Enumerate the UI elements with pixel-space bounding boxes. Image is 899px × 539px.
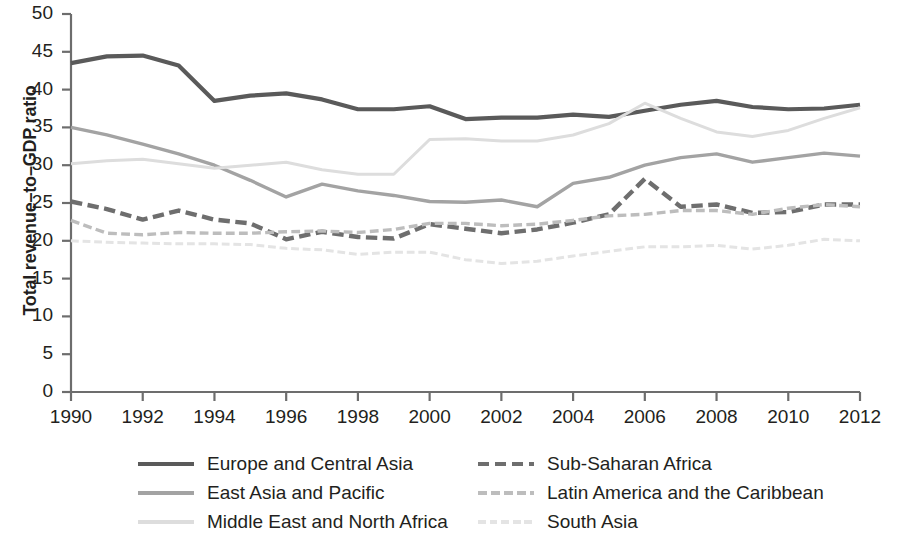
y-axis-tick-label: 30 — [11, 153, 53, 175]
x-axis-tick-label: 2002 — [471, 406, 531, 428]
x-axis-tick-label: 2012 — [830, 406, 890, 428]
x-axis-tick-label: 1996 — [256, 406, 316, 428]
legend-label: East Asia and Pacific — [207, 483, 384, 502]
legend-row: East Asia and PacificLatin America and t… — [138, 478, 898, 507]
legend-item[interactable]: Middle East and North Africa — [138, 512, 478, 531]
series-line-5 — [71, 239, 860, 263]
legend-swatch-icon — [478, 520, 534, 524]
y-axis-tick-label: 45 — [11, 40, 53, 62]
legend-item[interactable]: East Asia and Pacific — [138, 483, 478, 502]
legend-item[interactable]: Europe and Central Asia — [138, 454, 478, 473]
legend-swatch-icon — [138, 462, 194, 466]
chart-container: Total revenue–to–GDP ratio 5045403530252… — [0, 0, 899, 539]
y-axis-tick-label: 0 — [11, 380, 53, 402]
y-axis-tick-label: 40 — [11, 78, 53, 100]
data-series-layer — [71, 56, 860, 264]
chart-legend: Europe and Central AsiaSub-Saharan Afric… — [138, 449, 898, 536]
axis-lines — [62, 14, 860, 401]
legend-row: Middle East and North AfricaSouth Asia — [138, 507, 898, 536]
legend-label: Sub-Saharan Africa — [547, 454, 712, 473]
x-axis-tick-label: 1998 — [328, 406, 388, 428]
legend-item[interactable]: Sub-Saharan Africa — [478, 454, 878, 473]
legend-row: Europe and Central AsiaSub-Saharan Afric… — [138, 449, 898, 478]
legend-swatch-icon — [478, 491, 534, 495]
legend-label: Europe and Central Asia — [207, 454, 413, 473]
legend-label: Middle East and North Africa — [207, 512, 448, 531]
y-axis-tick-label: 10 — [11, 304, 53, 326]
legend-swatch-icon — [478, 462, 534, 466]
y-axis-tick-label: 5 — [11, 342, 53, 364]
x-axis-tick-label: 1994 — [184, 406, 244, 428]
y-axis-tick-label: 50 — [11, 2, 53, 24]
legend-item[interactable]: Latin America and the Caribbean — [478, 483, 878, 502]
legend-item[interactable]: South Asia — [478, 512, 878, 531]
y-axis-tick-label: 35 — [11, 115, 53, 137]
series-line-2 — [71, 103, 860, 174]
x-axis-tick-label: 2000 — [400, 406, 460, 428]
x-axis-tick-label: 1990 — [41, 406, 101, 428]
y-axis-tick-label: 15 — [11, 267, 53, 289]
legend-swatch-icon — [138, 491, 194, 495]
x-axis-tick-label: 2006 — [615, 406, 675, 428]
legend-label: Latin America and the Caribbean — [547, 483, 824, 502]
x-axis-tick-label: 2008 — [687, 406, 747, 428]
x-axis-tick-label: 1992 — [113, 406, 173, 428]
series-line-0 — [71, 56, 860, 120]
legend-swatch-icon — [138, 520, 194, 524]
legend-label: South Asia — [547, 512, 638, 531]
series-line-3 — [71, 179, 860, 239]
y-axis-tick-label: 20 — [11, 229, 53, 251]
x-axis-tick-label: 2004 — [543, 406, 603, 428]
x-axis-tick-label: 2010 — [758, 406, 818, 428]
y-axis-tick-label: 25 — [11, 191, 53, 213]
